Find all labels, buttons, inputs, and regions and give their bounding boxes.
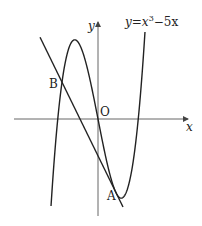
point-b-label: B (49, 77, 58, 91)
y-axis-label: y (87, 19, 95, 33)
graph-canvas: y x O B A y=x3−5x (0, 0, 202, 226)
svg-text:y=x3−5x: y=x3−5x (124, 14, 178, 29)
equation-label: y=x3−5x (124, 14, 178, 29)
origin-label: O (100, 105, 110, 119)
x-axis-label: x (186, 120, 193, 134)
point-a-label: A (106, 189, 116, 203)
